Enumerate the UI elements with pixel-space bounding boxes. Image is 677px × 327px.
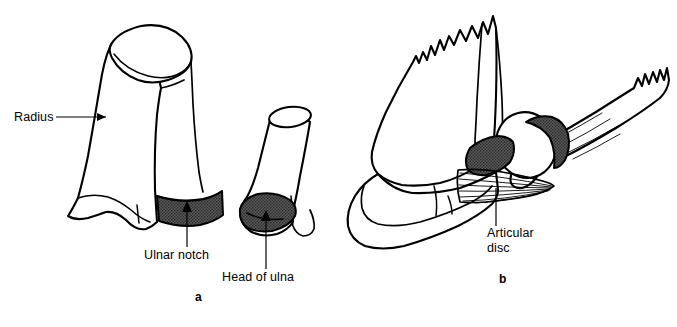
label-articular-disc: Articular disc: [487, 226, 534, 257]
panel-letter-b: b: [499, 272, 506, 286]
label-articular-disc-line1: Articular: [487, 226, 534, 241]
label-radius: Radius: [14, 110, 54, 125]
anatomy-figure: Radius Ulnar notch Head of ulna Articula…: [0, 0, 677, 327]
radius-bone: [68, 25, 203, 229]
radius-lateral-ridge: [191, 62, 203, 192]
label-articular-disc-line2: disc: [487, 241, 534, 256]
label-ulnar-notch: Ulnar notch: [144, 248, 209, 263]
panel-letter-a: a: [195, 290, 202, 304]
label-head-of-ulna: Head of ulna: [222, 270, 294, 285]
radius-leader: [56, 113, 106, 121]
head-of-ulna-leader: [261, 210, 271, 269]
